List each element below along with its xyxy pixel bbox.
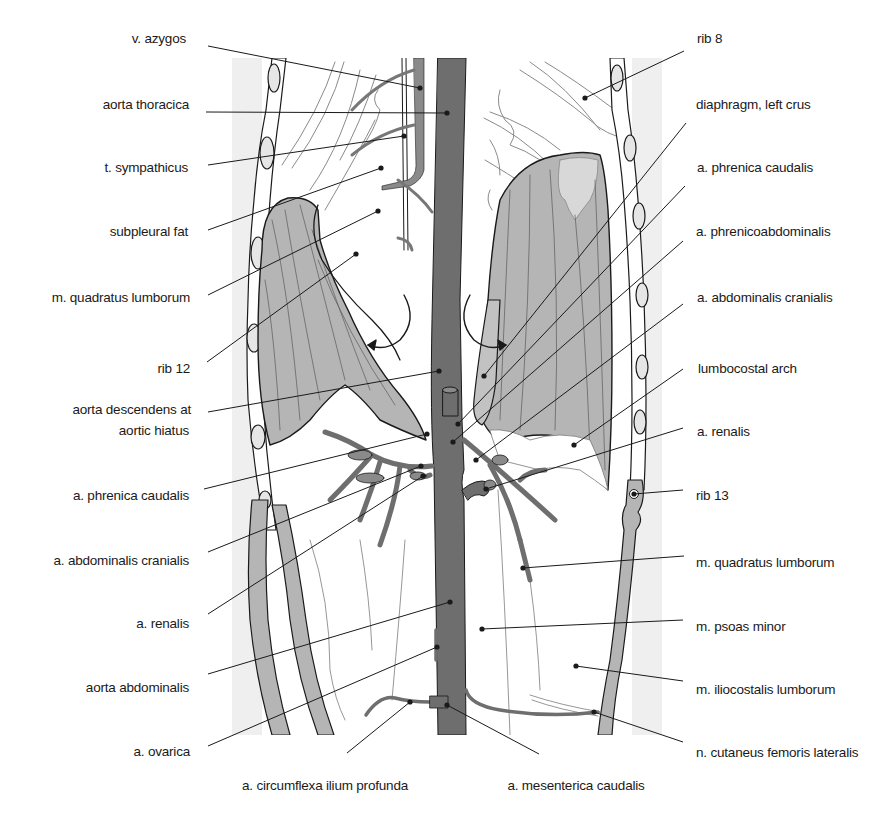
label-m-quadratus-lumborum: m. quadratus lumborum [696, 555, 834, 571]
label-a-renalis: a. renalis [697, 424, 750, 440]
label-lumbocostal-arch: lumbocostal arch [698, 361, 797, 377]
label-a-circumflexa-ilium-profunda: a. circumflexa ilium profunda [242, 778, 408, 794]
leader-dot-n-cutaneus-femoris-lateralis [591, 709, 596, 714]
leader-dot-m-iliocostalis-lumborum [573, 663, 578, 668]
leader-dot-aorta-abdominalis [447, 599, 452, 604]
leader-dot-lumbocostal-arch [571, 442, 576, 447]
leader-dot-a-circumflexa-ilium-profunda [407, 699, 412, 704]
leader-dot-a-abdominalis-cranialis-right [473, 457, 478, 462]
label-a-phrenicoabdominalis: a. phrenicoabdominalis [696, 224, 830, 240]
label-subpleural-fat: subpleural fat [110, 224, 188, 240]
label-aortic-hiatus: aortic hiatus [119, 423, 189, 439]
label-a-phrenica-caudalis: a. phrenica caudalis [73, 488, 189, 504]
label-aorta-thoracica: aorta thoracica [103, 97, 189, 113]
leader-dot-t-sympathicus [401, 133, 406, 138]
label-rib-13: rib 13 [696, 488, 729, 504]
label-a-abdominalis-cranialis: a. abdominalis cranialis [697, 290, 833, 306]
leader-dot-a-phrenicoabdominalis [450, 439, 455, 444]
label-diaphragm-left-crus: diaphragm, left crus [696, 97, 811, 113]
label-m-psoas-minor: m. psoas minor [696, 619, 785, 635]
label-v-azygos: v. azygos [132, 31, 186, 47]
leader-dot-rib-13 [631, 491, 636, 496]
label-m-quadratus-lumborum: m. quadratus lumborum [52, 290, 190, 306]
label-a-mesenterica-caudalis: a. mesenterica caudalis [507, 778, 644, 794]
leader-dot-a-phrenica-caudalis-right [455, 421, 460, 426]
leader-dot-a-renalis-right [483, 486, 488, 491]
label-a-phrenica-caudalis: a. phrenica caudalis [697, 160, 813, 176]
label-aorta-descendens-at: aorta descendens at [72, 402, 191, 418]
leader-dot-rib-8 [582, 95, 587, 100]
leader-dot-a-abdominalis-cranialis-left [418, 463, 423, 468]
label-t-sympathicus: t. sympathicus [105, 160, 188, 176]
label-aorta-abdominalis: aorta abdominalis [86, 680, 189, 696]
label-a-renalis: a. renalis [136, 616, 189, 632]
leader-dot-v-azygos [417, 85, 422, 90]
label-m-iliocostalis-lumborum: m. iliocostalis lumborum [696, 682, 835, 698]
label-a-ovarica: a. ovarica [133, 744, 190, 760]
leader-dot-m-quadratus-lumborum-left [375, 208, 380, 213]
leader-dot-m-psoas-minor [479, 626, 484, 631]
label-n-cutaneus-femoris-lateralis: n. cutaneus femoris lateralis [696, 745, 858, 761]
leader-dot-aorta-thoracica [444, 110, 449, 115]
leader-dot-a-mesenterica-caudalis [444, 702, 449, 707]
label-a-abdominalis-cranialis: a. abdominalis cranialis [53, 553, 189, 569]
leader-dot-subpleural-fat [378, 165, 383, 170]
label-rib-12: rib 12 [157, 361, 190, 377]
leader-dot-a-phrenica-caudalis-left [424, 431, 429, 436]
leader-dot-rib-12 [353, 251, 358, 256]
leader-dot-m-quadratus-lumborum-right [520, 565, 525, 570]
leader-dot-diaphragm-left-crus [481, 373, 486, 378]
leader-dot-a-renalis-left [420, 473, 425, 478]
leader-dot-a-ovarica [434, 644, 439, 649]
leader-dot-aorta-descendens [436, 368, 441, 373]
anatomical-figure: v. azygosaorta thoracicat. sympathicussu… [0, 0, 892, 830]
label-rib-8: rib 8 [697, 31, 722, 47]
